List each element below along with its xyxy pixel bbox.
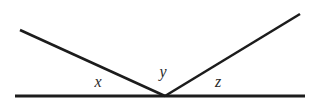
angle-diagram: x y z: [0, 0, 320, 105]
geometry-canvas: [0, 0, 320, 105]
right-ray-segment: [165, 14, 300, 96]
angle-label-z: z: [215, 74, 221, 90]
left-ray-segment: [20, 30, 165, 96]
angle-label-y: y: [159, 64, 166, 80]
angle-label-x: x: [94, 74, 101, 90]
